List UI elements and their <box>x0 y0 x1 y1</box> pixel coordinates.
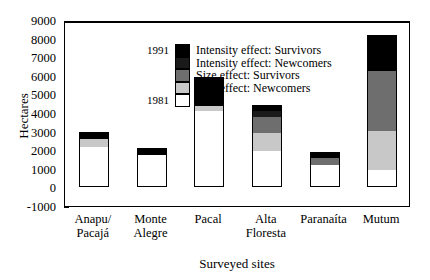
bar-column <box>79 20 109 206</box>
stacked-bar[interactable] <box>367 35 397 188</box>
legend-item: 1991Intensity effect: Survivors <box>147 44 369 57</box>
y-tick-label: 4000 <box>31 108 56 121</box>
y-tick-label: 6000 <box>31 71 56 84</box>
x-axis-title: Surveyed sites <box>64 256 410 272</box>
bar-segment <box>253 133 281 151</box>
bar-segment <box>253 117 281 133</box>
y-tick-label: 0 <box>50 182 56 195</box>
y-tick-label: -1000 <box>27 201 56 214</box>
y-tick-label: 3000 <box>31 126 56 139</box>
chart-figure: Hectares 9000800070006000500040003000200… <box>0 0 430 280</box>
x-tick-label: Mutum <box>363 213 400 227</box>
bar-segment <box>80 139 108 147</box>
bar-column <box>367 20 397 206</box>
legend-swatch <box>175 82 190 95</box>
legend-swatch <box>175 94 190 107</box>
bar-segment <box>368 131 396 170</box>
x-tick-label: Pacal <box>195 213 222 227</box>
x-tick-label: Anapu/ Pacajá <box>74 213 111 240</box>
legend-item: Size effect: Newcomers <box>147 82 369 95</box>
x-tick-label: Alta Floresta <box>246 213 286 240</box>
y-tick-label: 9000 <box>31 15 56 28</box>
stacked-bar[interactable] <box>252 105 282 188</box>
x-axis-tick-labels: Anapu/ PacajáMonte AlegrePacalAlta Flore… <box>64 209 410 255</box>
legend-swatch <box>175 57 190 70</box>
legend-label: Size effect: Newcomers <box>190 82 310 94</box>
legend-item: Intensity effect: Newcomers <box>147 57 369 70</box>
bar-segment <box>311 165 339 186</box>
bar-segment <box>195 111 223 187</box>
bar-segment <box>368 36 396 71</box>
legend-swatch <box>175 44 190 57</box>
bar-segment <box>311 158 339 165</box>
x-tick-label: Paranaíta <box>300 213 347 227</box>
y-tick-label: 8000 <box>31 33 56 46</box>
y-tick-label: 5000 <box>31 89 56 102</box>
zero-baseline <box>65 22 409 23</box>
bar-segment <box>368 170 396 187</box>
legend-item: 1981 <box>147 94 369 107</box>
plot-area: 1991Intensity effect: SurvivorsIntensity… <box>64 21 410 207</box>
x-tick-label: Monte Alegre <box>133 213 167 240</box>
legend-side-label: 1981 <box>147 95 175 106</box>
y-tick-label: 1000 <box>31 164 56 177</box>
stacked-bar[interactable] <box>137 148 167 187</box>
y-tick-label: 2000 <box>31 145 56 158</box>
bar-segment <box>80 147 108 186</box>
chart-legend: 1991Intensity effect: SurvivorsIntensity… <box>147 44 369 107</box>
legend-side-label: 1991 <box>147 45 175 56</box>
legend-swatch <box>175 69 190 82</box>
y-axis-tick-labels: 9000800070006000500040003000200010000-10… <box>0 0 64 280</box>
legend-label: Intensity effect: Newcomers <box>190 57 332 69</box>
legend-label: Intensity effect: Survivors <box>190 44 321 56</box>
bar-segment <box>253 151 281 186</box>
bar-segment <box>138 155 166 187</box>
stacked-bar[interactable] <box>79 132 109 188</box>
bar-segment <box>368 71 396 132</box>
legend-item: Size effect: Survivors <box>147 69 369 82</box>
stacked-bar[interactable] <box>310 152 340 187</box>
legend-label: Size effect: Survivors <box>190 69 300 81</box>
y-tick-mark <box>64 207 69 208</box>
y-tick-label: 7000 <box>31 52 56 65</box>
